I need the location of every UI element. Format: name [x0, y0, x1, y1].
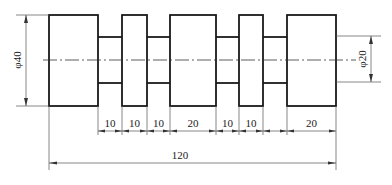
shaft-block-5: [287, 15, 336, 106]
segment-label-7: 20: [306, 117, 318, 129]
shaft-drawing: φ40 φ20: [0, 0, 392, 185]
shaft-block-1: [49, 15, 98, 106]
segment-label-2: 10: [129, 117, 141, 129]
diameter-40-label: φ40: [11, 51, 23, 69]
segment-label-1: 10: [105, 117, 117, 129]
total-length-label: 120: [172, 149, 189, 161]
shaft-block-4: [239, 15, 263, 106]
diameter-20-label: φ20: [356, 50, 368, 68]
total-length-dimension: 120: [49, 149, 336, 165]
segment-label-4: 20: [188, 117, 200, 129]
segment-label-6: 10: [246, 117, 258, 129]
diameter-20-dimension: φ20: [336, 36, 381, 82]
shaft-block-2: [122, 15, 147, 106]
extension-lines: [49, 106, 336, 170]
segment-label-5: 10: [222, 117, 234, 129]
segment-label-3: 10: [153, 117, 165, 129]
diameter-40-dimension: φ40: [11, 15, 49, 106]
shaft-block-3: [170, 15, 216, 106]
